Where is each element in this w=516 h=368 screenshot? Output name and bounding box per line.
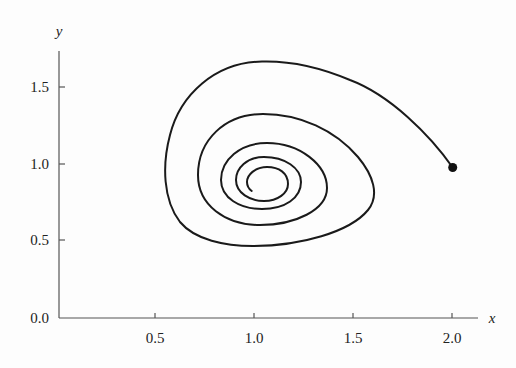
x-axis-label: x	[488, 310, 496, 326]
trajectory-curve	[165, 61, 453, 246]
x-tick-label: 1.5	[344, 330, 363, 346]
y-tick-label: 1.0	[30, 156, 49, 172]
y-tick-label: 1.5	[30, 79, 49, 95]
chart-svg: 1.5 1.0 0.5 0.0 0.5 1.0 1.5 2.0 y x	[0, 0, 516, 368]
axes	[59, 51, 478, 318]
y-axis-label: y	[54, 23, 63, 39]
x-tick-label: 0.5	[146, 330, 165, 346]
y-tick-label: 0.5	[30, 232, 49, 248]
start-point-marker	[448, 163, 457, 172]
y-tick-label: 0.0	[30, 310, 49, 326]
phase-plot: 1.5 1.0 0.5 0.0 0.5 1.0 1.5 2.0 y x	[0, 0, 516, 368]
x-tick-label: 2.0	[443, 330, 462, 346]
x-tick-label: 1.0	[245, 330, 264, 346]
